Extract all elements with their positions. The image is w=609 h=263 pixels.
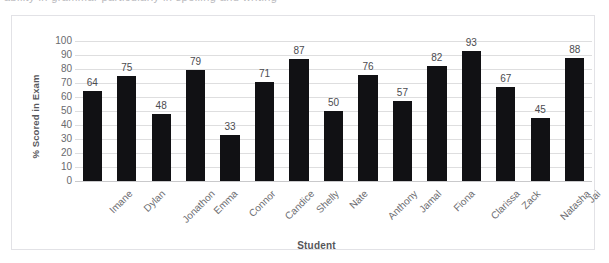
y-axis-tick-label: 90	[61, 50, 72, 60]
x-axis-tick-label: Emma	[211, 188, 239, 216]
bar-rect[interactable]	[393, 101, 412, 181]
bar-item[interactable]: 79	[186, 26, 205, 186]
bar-value-label: 57	[397, 88, 408, 98]
bar-rect[interactable]	[117, 76, 136, 181]
y-axis-title-label: % Scored in Exam	[31, 74, 42, 158]
bar-value-label: 88	[569, 45, 580, 55]
bar-rect[interactable]	[220, 135, 239, 181]
x-axis-tick-label: Dylan	[141, 188, 167, 214]
x-axis-tick-label: Connor	[247, 188, 278, 219]
x-axis-tick-label: Jai	[586, 188, 603, 205]
x-axis-tick-label: Natasha	[558, 188, 592, 222]
bar-rect[interactable]	[186, 70, 205, 181]
y-axis-tick-label: 100	[55, 36, 72, 46]
x-axis-tick-label: Anthony	[386, 188, 420, 222]
x-axis-tick-label: Zack	[519, 188, 542, 211]
bar-rect[interactable]	[289, 59, 308, 181]
bar-item[interactable]: 48	[152, 26, 171, 186]
bar-item[interactable]: 93	[462, 26, 481, 186]
plot-area: 647548793371875076578293674588	[75, 26, 592, 186]
bar-item[interactable]: 45	[531, 26, 550, 186]
bar-rect[interactable]	[255, 82, 274, 181]
bar-rect[interactable]	[152, 114, 171, 181]
x-axis-tick-label: Imane	[107, 188, 134, 215]
y-axis-tick-label: 80	[61, 64, 72, 74]
bar-value-label: 48	[156, 101, 167, 111]
bar-rect[interactable]	[324, 111, 343, 181]
x-axis-tick-label: Nate	[347, 188, 370, 211]
bar-rect[interactable]	[83, 91, 102, 181]
y-axis-tick-label: 70	[61, 78, 72, 88]
bar-value-label: 67	[500, 74, 511, 84]
bar-value-label: 50	[328, 98, 339, 108]
bar-item[interactable]: 50	[324, 26, 343, 186]
bar-item[interactable]: 33	[220, 26, 239, 186]
y-axis-tick-labels: 1009080706050403020100	[46, 26, 72, 186]
bar-series: 647548793371875076578293674588	[75, 26, 592, 186]
bar-value-label: 93	[466, 38, 477, 48]
bar-rect[interactable]	[531, 118, 550, 181]
x-axis-title: Student	[12, 240, 609, 251]
x-axis-tick-label: Jamal	[417, 188, 444, 215]
bar-rect[interactable]	[427, 66, 446, 181]
scan-top-text-sliver: ability in grammar particularly in spell…	[0, 0, 609, 6]
bar-value-label: 33	[225, 122, 236, 132]
bar-value-label: 76	[362, 62, 373, 72]
y-axis-tick-label: 10	[61, 162, 72, 172]
x-axis-tick-labels: ImaneDylanJonathonEmmaConnorCandiceShell…	[75, 188, 592, 238]
bar-rect[interactable]	[496, 87, 515, 181]
bar-value-label: 87	[293, 46, 304, 56]
bar-value-label: 82	[431, 53, 442, 63]
bar-value-label: 75	[121, 63, 132, 73]
bar-item[interactable]: 76	[358, 26, 377, 186]
y-axis-tick-label: 0	[66, 176, 72, 186]
y-axis-title: % Scored in Exam	[28, 46, 44, 186]
chart-container: % Scored in Exam 1009080706050403020100 …	[11, 15, 595, 250]
y-axis-tick-label: 30	[61, 134, 72, 144]
bar-value-label: 79	[190, 57, 201, 67]
bar-item[interactable]: 75	[117, 26, 136, 186]
y-axis-tick-label: 60	[61, 92, 72, 102]
x-axis-tick-label: Fiona	[451, 188, 476, 213]
bar-item[interactable]: 82	[427, 26, 446, 186]
bar-item[interactable]: 88	[565, 26, 584, 186]
x-axis-tick-label: Candice	[282, 188, 316, 222]
bar-item[interactable]: 71	[255, 26, 274, 186]
bar-value-label: 64	[87, 78, 98, 88]
y-axis-tick-label: 40	[61, 120, 72, 130]
bar-value-label: 71	[259, 69, 270, 79]
bar-rect[interactable]	[358, 75, 377, 181]
bar-value-label: 45	[535, 105, 546, 115]
bar-item[interactable]: 87	[289, 26, 308, 186]
bar-item[interactable]: 57	[393, 26, 412, 186]
y-axis-tick-label: 20	[61, 148, 72, 158]
x-axis-tick-label: Clarissa	[489, 188, 522, 221]
bar-rect[interactable]	[565, 58, 584, 181]
y-axis-tick-label: 50	[61, 106, 72, 116]
bar-rect[interactable]	[462, 51, 481, 181]
scan-top-text: ability in grammar particularly in spell…	[4, 0, 277, 3]
bar-item[interactable]: 64	[83, 26, 102, 186]
x-axis-tick-label: Shelly	[314, 188, 341, 215]
bar-item[interactable]: 67	[496, 26, 515, 186]
